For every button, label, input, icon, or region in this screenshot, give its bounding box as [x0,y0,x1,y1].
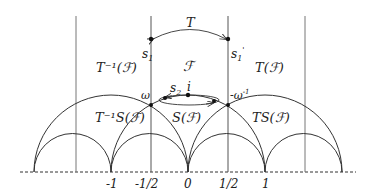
label-s1-prime: s1' [231,45,244,63]
region-label-T-inv-F: T⁻¹(ℱ) [96,60,137,75]
region-label-T-F: T(ℱ) [255,60,284,75]
t-arrow [153,30,226,40]
label-omega: ω [141,89,150,102]
point-omega [149,103,153,107]
point-s2 [163,96,167,100]
label-s2: s2 [170,81,181,97]
tick-label-half: 1/2 [219,177,238,191]
unit-circle-center-0 [111,95,265,172]
unit-circle-center-neg1 [34,95,188,172]
region-label-T-inv-S-F: T⁻¹S(ℱ) [95,110,145,125]
tick-label-neg1: -1 [106,177,118,191]
tick-label-0: 0 [184,177,192,191]
half-circle-neg-half [111,134,188,172]
region-label-F: ℱ [183,58,197,74]
modular-domain-diagram: T s1 s1' s2 i ω -ω-1 ℱ T⁻¹(ℱ) T(ℱ) T⁻¹S(… [0,0,368,195]
unit-circle-center-1 [188,95,342,172]
region-label-TS-F: TS(ℱ) [252,110,290,125]
s-loop-arrow-right [206,103,213,104]
tick-label-neg-half: -1/2 [135,177,158,191]
label-s1: s1 [142,47,153,63]
half-circle-half [188,134,265,173]
point-s1 [149,37,153,41]
label-i: i [187,80,191,94]
half-circle-three-halves [265,134,342,173]
label-neg-omega-inv: -ω-1 [230,88,250,102]
point-s2-image [212,99,216,103]
tick-label-1: 1 [262,177,270,191]
region-label-S-F: S(ℱ) [172,110,201,125]
t-arrow-label: T [186,15,196,30]
half-circle-neg-three-halves [34,134,111,173]
point-s1-prime [226,37,230,41]
point-neg-omega-inv [226,103,230,107]
